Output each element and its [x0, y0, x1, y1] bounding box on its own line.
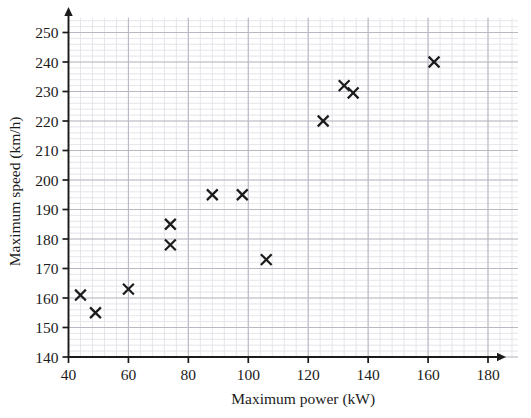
y-tick-label: 230 [35, 83, 59, 100]
x-tick-label: 40 [61, 366, 77, 383]
y-tick-label: 140 [35, 349, 59, 366]
y-tick-label: 160 [35, 290, 59, 307]
x-tick-label: 80 [181, 366, 197, 383]
y-tick-label: 150 [35, 319, 59, 336]
x-tick-label: 120 [297, 366, 321, 383]
y-tick-label: 200 [35, 172, 59, 189]
y-tick-label: 180 [35, 231, 59, 248]
x-tick-label: 180 [476, 366, 500, 383]
x-tick-label: 60 [121, 366, 137, 383]
y-tick-label: 190 [35, 201, 59, 218]
y-axis-title: Maximum speed (km/h) [6, 116, 24, 266]
x-tick-label: 140 [357, 366, 381, 383]
scatter-chart: 406080100120140160180 140150160170180190… [0, 0, 531, 418]
x-axis-title: Maximum power (kW) [231, 390, 375, 408]
y-tick-label: 170 [35, 260, 59, 277]
y-tick-label: 250 [35, 24, 59, 41]
y-tick-label: 220 [35, 113, 59, 130]
y-tick-label: 210 [35, 142, 59, 159]
x-tick-label: 160 [416, 366, 440, 383]
y-tick-label: 240 [35, 54, 59, 71]
x-tick-label: 100 [237, 366, 261, 383]
chart-canvas: 406080100120140160180 140150160170180190… [0, 0, 531, 418]
